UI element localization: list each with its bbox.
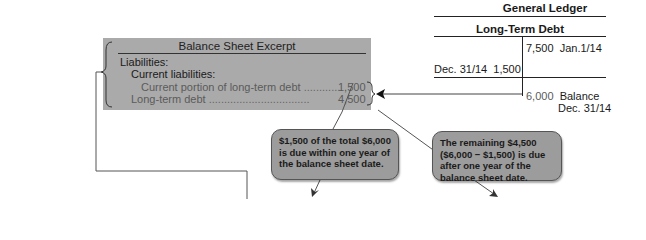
left-brace-icon (101, 42, 112, 107)
right-brace-icon (367, 82, 375, 105)
arrow-down-icon (311, 188, 319, 197)
arrow-down-icon (489, 189, 498, 197)
callout-current-portion: $1,500 of the total $6,000 is due within… (271, 129, 399, 180)
callout-remaining-long-term: The remaining $4,500 ($6,000 − $1,500) i… (432, 131, 562, 181)
